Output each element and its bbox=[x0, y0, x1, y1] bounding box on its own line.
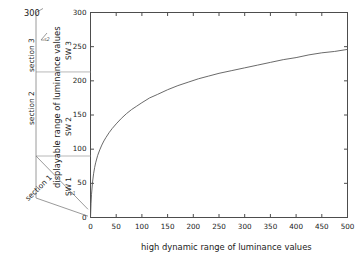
y-tick-label: 250 bbox=[70, 43, 87, 50]
section3-label: section 3 bbox=[28, 38, 35, 72]
x-axis-title: high dynamic range of luminance values bbox=[141, 243, 312, 251]
x-tick-label: 250 bbox=[212, 223, 226, 230]
y-axis-title: displayable range of luminance values bbox=[53, 26, 61, 188]
figure-canvas: 300 high dynamic range of luminance valu… bbox=[0, 0, 363, 262]
y-axis-ticks bbox=[91, 13, 348, 218]
y-tick-label: 200 bbox=[70, 77, 87, 84]
marker-lower-label: s1 bbox=[70, 191, 76, 196]
x-tick-label: 100 bbox=[135, 223, 149, 230]
plot-frame bbox=[91, 13, 348, 218]
y-tick-label: 100 bbox=[70, 145, 87, 152]
x-tick-label: 350 bbox=[263, 223, 277, 230]
x-axis-ticks bbox=[91, 13, 348, 218]
x-tick-label: 500 bbox=[341, 223, 355, 230]
x-tick-label: 150 bbox=[161, 223, 175, 230]
y-tick-label: 150 bbox=[70, 111, 87, 118]
sw2-region-label: SW 2 bbox=[65, 117, 72, 136]
marker-upper-label: s2 bbox=[44, 37, 50, 42]
x-tick-label: 300 bbox=[238, 223, 252, 230]
x-tick-label: 400 bbox=[289, 223, 303, 230]
x-tick-label: 50 bbox=[109, 223, 123, 230]
x-tick-label: 0 bbox=[84, 223, 98, 230]
top-left-max-label: 300 bbox=[24, 9, 40, 17]
section2-label: section 2 bbox=[28, 91, 35, 125]
y-tick-label: 300 bbox=[70, 9, 87, 16]
y-tick-label: 0 bbox=[70, 214, 87, 221]
y-tick-label: 50 bbox=[70, 179, 87, 186]
x-tick-label: 450 bbox=[315, 223, 329, 230]
data-curve bbox=[91, 49, 348, 217]
x-tick-label: 200 bbox=[186, 223, 200, 230]
